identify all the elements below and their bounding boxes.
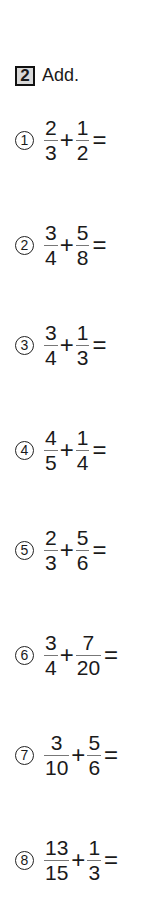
numerator: 5 xyxy=(76,222,90,244)
problem-number-circle: 2 xyxy=(15,236,34,255)
fraction-a: 34 xyxy=(44,322,58,369)
numerator: 2 xyxy=(44,527,58,549)
section-header: 2 Add. xyxy=(15,65,79,86)
equals-sign: = xyxy=(104,848,118,872)
problem-number-circle: 7 xyxy=(15,746,34,765)
plus-sign: + xyxy=(60,438,74,462)
problem-3: 334+13= xyxy=(15,320,106,370)
problem-number-circle: 3 xyxy=(15,336,34,355)
denominator: 4 xyxy=(76,452,90,474)
fraction-a: 34 xyxy=(44,222,58,269)
problem-number-circle: 1 xyxy=(15,131,34,150)
denominator: 3 xyxy=(87,862,101,884)
problem-number-circle: 6 xyxy=(15,646,34,665)
numerator: 13 xyxy=(44,837,69,859)
plus-sign: + xyxy=(71,743,85,767)
problem-8: 81315+13= xyxy=(15,835,118,885)
problem-number-circle: 5 xyxy=(15,541,34,560)
denominator: 5 xyxy=(44,452,58,474)
fraction-a: 45 xyxy=(44,427,58,474)
denominator: 3 xyxy=(76,347,90,369)
denominator: 20 xyxy=(76,657,101,679)
problem-7: 7310+56= xyxy=(15,730,118,780)
numerator: 3 xyxy=(44,222,58,244)
numerator: 7 xyxy=(82,632,96,654)
denominator: 2 xyxy=(76,142,90,164)
denominator: 4 xyxy=(44,347,58,369)
numerator: 3 xyxy=(44,322,58,344)
denominator: 6 xyxy=(87,757,101,779)
numerator: 1 xyxy=(87,837,101,859)
fraction-b: 720 xyxy=(76,632,101,679)
numerator: 1 xyxy=(76,117,90,139)
numerator: 3 xyxy=(50,732,64,754)
fraction-b: 12 xyxy=(76,117,90,164)
problem-5: 523+56= xyxy=(15,525,106,575)
numerator: 1 xyxy=(76,322,90,344)
equals-sign: = xyxy=(92,538,106,562)
plus-sign: + xyxy=(71,848,85,872)
fraction-a: 310 xyxy=(44,732,69,779)
numerator: 5 xyxy=(76,527,90,549)
denominator: 4 xyxy=(44,247,58,269)
fraction-a: 1315 xyxy=(44,837,69,884)
numerator: 3 xyxy=(44,632,58,654)
equals-sign: = xyxy=(92,438,106,462)
fraction-a: 34 xyxy=(44,632,58,679)
fraction-b: 14 xyxy=(76,427,90,474)
section-number-box: 2 xyxy=(15,66,35,86)
equals-sign: = xyxy=(104,743,118,767)
problem-1: 123+12= xyxy=(15,115,106,165)
problem-4: 445+14= xyxy=(15,425,106,475)
problem-2: 234+58= xyxy=(15,220,106,270)
fraction-a: 23 xyxy=(44,117,58,164)
fraction-b: 56 xyxy=(76,527,90,574)
numerator: 4 xyxy=(44,427,58,449)
plus-sign: + xyxy=(60,538,74,562)
equals-sign: = xyxy=(92,333,106,357)
plus-sign: + xyxy=(60,128,74,152)
plus-sign: + xyxy=(60,333,74,357)
denominator: 4 xyxy=(44,657,58,679)
denominator: 3 xyxy=(44,552,58,574)
equals-sign: = xyxy=(92,128,106,152)
equals-sign: = xyxy=(92,233,106,257)
section-instruction: Add. xyxy=(42,65,79,86)
problem-number-circle: 8 xyxy=(15,851,34,870)
fraction-b: 13 xyxy=(87,837,101,884)
problem-number-circle: 4 xyxy=(15,441,34,460)
denominator: 15 xyxy=(44,862,69,884)
plus-sign: + xyxy=(60,233,74,257)
denominator: 10 xyxy=(44,757,69,779)
denominator: 6 xyxy=(76,552,90,574)
fraction-b: 56 xyxy=(87,732,101,779)
plus-sign: + xyxy=(60,643,74,667)
fraction-a: 23 xyxy=(44,527,58,574)
numerator: 2 xyxy=(44,117,58,139)
denominator: 3 xyxy=(44,142,58,164)
denominator: 8 xyxy=(76,247,90,269)
equals-sign: = xyxy=(104,643,118,667)
numerator: 5 xyxy=(87,732,101,754)
fraction-b: 13 xyxy=(76,322,90,369)
fraction-b: 58 xyxy=(76,222,90,269)
problem-6: 634+720= xyxy=(15,630,118,680)
numerator: 1 xyxy=(76,427,90,449)
